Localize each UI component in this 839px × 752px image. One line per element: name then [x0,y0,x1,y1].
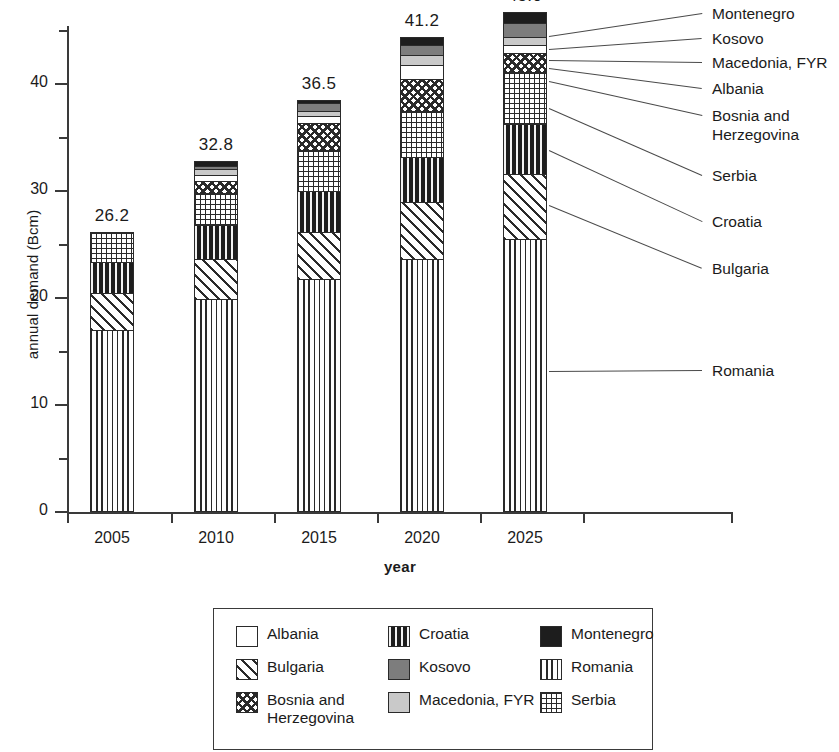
y-tick-minor-5 [59,458,68,460]
segment-2020-macedonia-fyr[interactable] [400,55,444,65]
legend-text-macedonia-fyr: Macedonia, FYR [419,691,534,709]
segment-2015-albania[interactable] [297,116,341,122]
legend-item-serbia[interactable]: Serbia [540,691,660,724]
callout-label-bosnia-and-herzegovina: Bosnia and Herzegovina [712,106,799,144]
segment-2015-bulgaria[interactable] [297,232,341,279]
segment-2020-kosovo[interactable] [400,45,444,55]
segment-2005-bulgaria[interactable] [90,293,134,330]
legend-item-romania[interactable]: Romania [540,658,660,691]
segment-2015-croatia[interactable] [297,191,341,232]
bar-2005[interactable] [90,0,134,512]
legend-text-kosovo: Kosovo [419,658,471,676]
segment-2025-albania[interactable] [503,45,547,52]
legend-swatch-serbia [540,692,562,713]
segment-2025-bosnia-and-herzegovina[interactable] [503,53,547,72]
bar-2020[interactable] [400,0,444,512]
legend-item-bosnia-and-herzegovina[interactable]: Bosnia and Herzegovina [236,691,388,724]
y-tick-label-0: 0 [0,501,48,519]
y-tick-minor-45 [59,30,68,32]
y-tick-label-40: 40 [0,73,48,91]
callout-label-macedonia-fyr: Macedonia, FYR [712,53,827,72]
segment-2010-kosovo[interactable] [194,166,238,168]
segment-2010-bosnia-and-herzegovina[interactable] [194,181,238,193]
segment-2020-bulgaria[interactable] [400,202,444,260]
segment-2010-bulgaria[interactable] [194,259,238,299]
legend-text-croatia: Croatia [419,625,469,643]
bar-total-2020: 41.2 [367,11,477,31]
segment-2025-croatia[interactable] [503,124,547,174]
x-tick-label-2010: 2010 [171,529,261,547]
callout-leader-croatia [549,150,703,222]
x-axis-separator-4 [480,512,482,523]
legend-swatch-romania [540,659,562,680]
legend-text-bosnia-and-herzegovina: Bosnia and Herzegovina [267,691,354,727]
y-tick-minor-35 [59,137,68,139]
bar-2025[interactable] [503,0,547,512]
y-tick-major-10 [55,404,68,406]
segment-2010-albania[interactable] [194,175,238,181]
callout-label-bulgaria: Bulgaria [712,259,769,278]
legend-swatch-bosnia [236,692,258,713]
segment-2010-montenegro[interactable] [194,161,238,166]
legend: AlbaniaCroatiaMontenegroBulgariaKosovoRo… [213,608,653,750]
segment-2020-romania[interactable] [400,259,444,512]
x-tick-label-2005: 2005 [67,529,157,547]
segment-2025-macedonia-fyr[interactable] [503,37,547,46]
bar-2010[interactable] [194,0,238,512]
segment-2020-croatia[interactable] [400,157,444,202]
x-axis-separator-0 [67,512,69,523]
segment-2010-romania[interactable] [194,299,238,512]
legend-swatch-montenegro [540,626,562,647]
bar-total-2005: 26.2 [57,206,167,226]
y-tick-label-10: 10 [0,394,48,412]
segment-2020-montenegro[interactable] [400,37,444,46]
legend-item-kosovo[interactable]: Kosovo [388,658,540,691]
segment-2025-kosovo[interactable] [503,23,547,37]
x-axis-separator-1 [171,512,173,523]
y-tick-major-30 [55,190,68,192]
legend-text-serbia: Serbia [571,691,616,709]
segment-2025-romania[interactable] [503,239,547,512]
legend-item-bulgaria[interactable]: Bulgaria [236,658,388,691]
x-axis-line [67,512,731,514]
legend-item-montenegro[interactable]: Montenegro [540,625,660,658]
legend-text-albania: Albania [267,625,319,643]
legend-grid: AlbaniaCroatiaMontenegroBulgariaKosovoRo… [236,625,646,724]
callout-label-croatia: Croatia [712,212,762,231]
bar-total-2010: 32.8 [161,135,271,155]
segment-2020-bosnia-and-herzegovina[interactable] [400,79,444,111]
y-axis-line [67,26,69,513]
segment-2015-bosnia-and-herzegovina[interactable] [297,123,341,151]
x-axis-title: year [60,558,740,575]
callout-label-kosovo: Kosovo [712,29,764,48]
bar-total-2025: 45.0 [470,0,580,6]
segment-2005-croatia[interactable] [90,262,134,293]
segment-2005-serbia[interactable] [90,232,134,262]
segment-2025-montenegro[interactable] [503,12,547,23]
y-tick-major-20 [55,297,68,299]
callout-leader-macedonia-fyr [549,60,702,63]
x-tick-label-2025: 2025 [480,529,570,547]
y-axis-title: annual demand (Bcm) [24,175,41,395]
segment-2005-romania[interactable] [90,330,134,512]
segment-2015-kosovo[interactable] [297,103,341,110]
legend-item-macedonia-fyr[interactable]: Macedonia, FYR [388,691,540,724]
y-tick-major-40 [55,83,68,85]
legend-text-montenegro: Montenegro [571,625,654,643]
x-axis-separator-3 [377,512,379,523]
segment-2020-albania[interactable] [400,65,444,79]
segment-2015-montenegro[interactable] [297,100,341,103]
segment-2010-serbia[interactable] [194,193,238,225]
legend-item-croatia[interactable]: Croatia [388,625,540,658]
segment-2010-macedonia-fyr[interactable] [194,169,238,175]
segment-2020-serbia[interactable] [400,111,444,157]
segment-2010-croatia[interactable] [194,225,238,259]
segment-2015-romania[interactable] [297,279,341,512]
segment-2015-serbia[interactable] [297,150,341,191]
y-tick-minor-25 [59,244,68,246]
segment-2025-serbia[interactable] [503,72,547,123]
legend-item-albania[interactable]: Albania [236,625,388,658]
segment-2015-macedonia-fyr[interactable] [297,111,341,116]
segment-2025-bulgaria[interactable] [503,174,547,239]
x-axis-separator-5 [583,512,585,523]
